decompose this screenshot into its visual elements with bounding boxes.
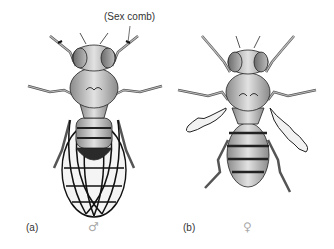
male-fly (28, 26, 162, 217)
panel-a-label: (a) (26, 222, 38, 233)
fly-figure: (Sex comb) (a) ♂ (b) ♀ (0, 0, 334, 249)
female-fly (178, 36, 316, 192)
sex-comb-annotation: (Sex comb) (104, 11, 155, 22)
panel-b-label: (b) (183, 222, 195, 233)
male-symbol-icon: ♂ (88, 220, 99, 234)
fly-illustrations (0, 0, 334, 249)
female-symbol-icon: ♀ (243, 220, 252, 234)
